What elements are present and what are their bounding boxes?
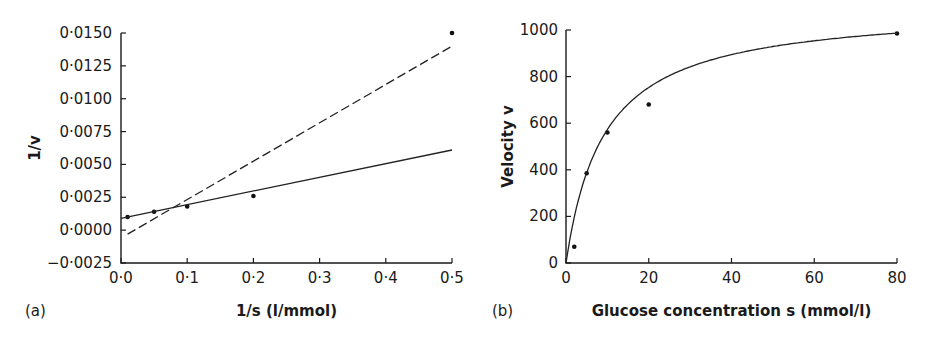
y-tick-label: 0·0050: [60, 155, 113, 173]
axes-frame: [121, 33, 452, 263]
x-axis-title: 1/s (l/mmol): [236, 302, 337, 320]
y-tick-label: 1000: [520, 21, 558, 39]
y-tick-label: 0: [548, 254, 558, 272]
dashed-fit-line: [128, 46, 452, 234]
x-tick-label: 60: [805, 269, 824, 287]
y-tick-label: 800: [529, 68, 558, 86]
y-axis-title: 1/v: [26, 135, 44, 161]
x-tick-label: 40: [722, 269, 741, 287]
data-point: [251, 194, 256, 199]
panel-label: (b): [492, 302, 513, 320]
figure: 0·01500·01250·01000·00750·00500·00250·00…: [0, 0, 926, 344]
y-tick-label: 0·0150: [60, 24, 113, 42]
y-tick-label: 0·0075: [60, 123, 113, 141]
data-point: [572, 244, 577, 249]
panel-a-chart: 0·01500·01250·01000·00750·00500·00250·00…: [25, 24, 464, 320]
panel-b-chart: 10008006004002000020406080Glucose concen…: [492, 21, 907, 320]
data-point: [646, 102, 651, 107]
x-tick-label: 0·3: [308, 269, 332, 287]
y-tick-label: 0·0125: [60, 57, 113, 75]
axes-frame: [566, 30, 897, 263]
x-tick-label: 80: [887, 269, 906, 287]
x-tick-label: 20: [639, 269, 658, 287]
x-tick-label: 0·0: [109, 269, 133, 287]
panel-label: (a): [25, 302, 46, 320]
y-tick-label: 0·0025: [60, 188, 113, 206]
data-point: [450, 31, 455, 36]
solid-fit-line: [121, 150, 452, 218]
y-tick-label: 0·0100: [60, 90, 113, 108]
x-axis-title: Glucose concentration s (mmol/l): [592, 302, 872, 320]
y-tick-label: 200: [529, 207, 558, 225]
y-tick-label: 600: [529, 114, 558, 132]
fitted-curve: [566, 33, 897, 263]
y-axis-title: Velocity v: [499, 105, 517, 188]
y-tick-label: 400: [529, 161, 558, 179]
x-tick-label: 0·1: [175, 269, 199, 287]
x-tick-label: 0·4: [374, 269, 398, 287]
y-tick-label: 0·0000: [60, 221, 113, 239]
x-tick-label: 0·2: [241, 269, 265, 287]
x-tick-label: 0: [561, 269, 571, 287]
y-tick-label: −0·0025: [47, 254, 112, 272]
x-tick-label: 0·5: [440, 269, 464, 287]
